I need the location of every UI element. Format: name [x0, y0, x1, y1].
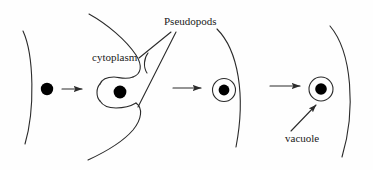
stage2-particle [114, 86, 127, 99]
cytoplasm-leader [144, 53, 148, 73]
stage2-upper-pseudopod-inner [100, 77, 133, 84]
phagocytosis-diagram: Pseudopods cytoplasm vacuole [0, 0, 373, 170]
stage2-lower-pseudopod-outer [88, 103, 141, 160]
pseudopods-label: Pseudopods [164, 16, 217, 27]
stage4-particle [315, 83, 327, 95]
stage3-particle [219, 85, 230, 96]
stage2-lower-pseudopod-inner [100, 101, 136, 108]
vacuole-leader [291, 105, 316, 131]
pseudopods-leader-upper [139, 32, 171, 58]
stage1-particle [41, 83, 53, 95]
cytoplasm-label: cytoplasm [92, 52, 137, 63]
vacuole-label: vacuole [285, 133, 319, 144]
stage2-upper-pseudopod-outer [89, 14, 140, 77]
stage1-cell-membrane-arc [23, 31, 32, 144]
stage2-pocket-left-end [97, 84, 100, 101]
